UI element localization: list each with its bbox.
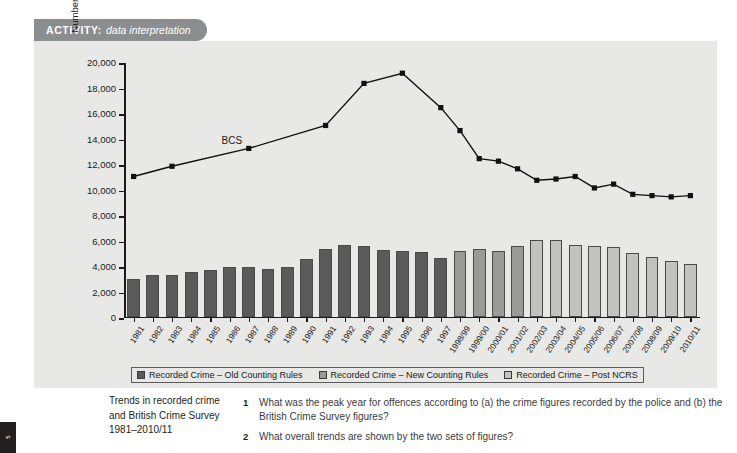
y-axis-tick bbox=[119, 114, 124, 116]
activity-label: ACTIVITY: bbox=[46, 24, 102, 36]
y-axis-tick bbox=[119, 191, 124, 193]
x-axis-tick bbox=[134, 318, 135, 322]
bcs-data-point-2009-10 bbox=[669, 194, 674, 199]
y-axis-tick bbox=[119, 216, 124, 218]
bcs-data-point-2010-11 bbox=[688, 193, 693, 198]
bcs-data-point-2002-03 bbox=[534, 178, 539, 183]
legend-item-1: Recorded Crime – New Counting Rules bbox=[319, 370, 489, 380]
legend-item-0: Recorded Crime – Old Counting Rules bbox=[137, 370, 303, 380]
bcs-data-point-1983 bbox=[169, 164, 174, 169]
legend-label: Recorded Crime – Old Counting Rules bbox=[149, 370, 303, 380]
bcs-data-point-1991 bbox=[323, 123, 328, 128]
bcs-data-point-2008-09 bbox=[649, 193, 654, 198]
bar-1984 bbox=[185, 272, 198, 317]
bcs-data-point-1997 bbox=[438, 105, 443, 110]
bar-2010-11 bbox=[684, 264, 697, 317]
bcs-data-point-1987 bbox=[246, 146, 251, 151]
x-axis-tick bbox=[690, 318, 691, 322]
x-axis-tick bbox=[249, 318, 250, 322]
x-axis-tick bbox=[460, 318, 461, 322]
bcs-data-point-1998-99 bbox=[457, 128, 462, 133]
bar-1991 bbox=[319, 249, 332, 316]
y-axis-tick-label: 16,000 bbox=[87, 109, 116, 119]
y-axis-tick bbox=[119, 242, 124, 244]
x-axis-tick bbox=[383, 318, 384, 322]
bar-2003-04 bbox=[550, 240, 563, 317]
y-axis-tick-label: 20,000 bbox=[87, 58, 116, 68]
bar-1982 bbox=[146, 275, 159, 317]
y-axis-tick-label: 8,000 bbox=[92, 211, 116, 221]
activity-subtitle: data interpretation bbox=[106, 24, 191, 36]
x-axis-tick bbox=[172, 318, 173, 322]
x-axis-tick bbox=[306, 318, 307, 322]
bar-2005-06 bbox=[588, 246, 601, 317]
x-axis-tick bbox=[364, 318, 365, 322]
y-axis-tick-label: 4,000 bbox=[92, 262, 116, 272]
page-root: 5 ACTIVITY: data interpretation Number o… bbox=[0, 0, 737, 453]
y-axis-tick-label: 0 bbox=[111, 313, 116, 323]
y-axis-tick-label: 2,000 bbox=[92, 288, 116, 298]
bar-1998-99 bbox=[454, 251, 467, 316]
x-axis-tick bbox=[556, 318, 557, 322]
bcs-data-point-2003-04 bbox=[553, 176, 558, 181]
bar-1989 bbox=[281, 267, 294, 316]
bar-1983 bbox=[166, 275, 179, 316]
question-row-2: 2What overall trends are shown by the tw… bbox=[243, 430, 723, 444]
x-axis-tick bbox=[191, 318, 192, 322]
y-axis-tick-label: 12,000 bbox=[87, 160, 116, 170]
y-axis-tick bbox=[119, 63, 124, 65]
bar-1987 bbox=[242, 267, 255, 317]
bar-2006-07 bbox=[607, 247, 620, 316]
y-axis-tick bbox=[119, 293, 124, 295]
activity-questions: 1What was the peak year for offences acc… bbox=[243, 396, 723, 450]
y-axis-tick-label: 10,000 bbox=[87, 186, 116, 196]
legend-swatch-icon bbox=[504, 371, 512, 379]
x-axis-tick bbox=[671, 318, 672, 322]
bcs-data-point-1995 bbox=[400, 71, 405, 76]
x-axis-tick bbox=[287, 318, 288, 322]
y-axis-tick-label: 14,000 bbox=[87, 135, 116, 145]
bar-2007-08 bbox=[626, 253, 639, 316]
bar-1990 bbox=[300, 259, 313, 317]
activity-banner: ACTIVITY: data interpretation bbox=[34, 19, 207, 41]
bar-2001-02 bbox=[511, 246, 524, 316]
bar-1996 bbox=[415, 252, 428, 316]
bar-1993 bbox=[358, 246, 371, 316]
x-axis-tick bbox=[422, 318, 423, 322]
bar-1986 bbox=[223, 267, 236, 316]
x-axis-tick bbox=[498, 318, 499, 322]
bar-2004-05 bbox=[569, 245, 582, 317]
bcs-data-point-1999-00 bbox=[477, 156, 482, 161]
bcs-series-annotation: BCS bbox=[222, 135, 243, 146]
y-axis-tick-label: 18,000 bbox=[87, 84, 116, 94]
bar-1981 bbox=[127, 279, 140, 317]
bcs-line-path bbox=[134, 73, 691, 197]
bar-1995 bbox=[396, 251, 409, 316]
bar-1999-00 bbox=[473, 249, 486, 317]
x-axis-tick bbox=[633, 318, 634, 322]
question-text: What overall trends are shown by the two… bbox=[259, 430, 513, 444]
legend-swatch-icon bbox=[319, 371, 327, 379]
y-axis-tick-label: 6,000 bbox=[92, 237, 116, 247]
bar-1988 bbox=[262, 269, 275, 316]
caption-line-1: Trends in recorded crime bbox=[109, 394, 239, 409]
question-number: 2 bbox=[243, 430, 259, 444]
x-axis-tick bbox=[614, 318, 615, 322]
x-axis-tick bbox=[575, 318, 576, 322]
bar-1997 bbox=[434, 258, 447, 317]
bar-1992 bbox=[338, 245, 351, 316]
chart-caption: Trends in recorded crime and British Cri… bbox=[109, 394, 239, 438]
x-axis-tick bbox=[402, 318, 403, 322]
x-axis-tick bbox=[594, 318, 595, 322]
edge-tab-label: 5 bbox=[5, 429, 11, 445]
legend-label: Recorded Crime – New Counting Rules bbox=[331, 370, 489, 380]
bar-2002-03 bbox=[530, 240, 543, 316]
page-edge-tab: 5 bbox=[0, 422, 16, 453]
legend-swatch-icon bbox=[137, 371, 145, 379]
y-axis-tick bbox=[119, 267, 124, 269]
bar-1994 bbox=[377, 250, 390, 317]
x-axis-tick bbox=[652, 318, 653, 322]
bcs-data-point-2000-01 bbox=[496, 159, 501, 164]
bcs-data-point-1993 bbox=[361, 81, 366, 86]
bcs-data-point-2006-07 bbox=[611, 182, 616, 187]
